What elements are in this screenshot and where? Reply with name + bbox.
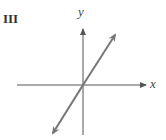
diagonal-line-lower (53, 85, 83, 133)
coordinate-plane (0, 0, 166, 140)
diagonal-line (83, 35, 115, 85)
